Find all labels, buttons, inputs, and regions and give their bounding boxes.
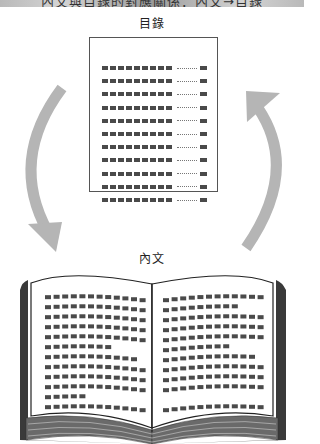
text-line-char xyxy=(122,356,128,360)
text-line-char xyxy=(215,374,221,378)
text-line-char xyxy=(140,388,146,392)
text-line-char xyxy=(223,404,229,408)
text-line-char xyxy=(172,407,178,411)
text-line-char xyxy=(122,296,128,300)
text-line-char xyxy=(140,368,146,372)
text-line-char xyxy=(45,395,51,399)
text-line-char xyxy=(215,294,221,298)
text-line-char xyxy=(114,326,120,330)
text-line-char xyxy=(140,308,146,312)
text-line-char xyxy=(258,375,264,379)
text-line-char xyxy=(189,356,195,360)
text-line-char xyxy=(223,324,229,328)
text-line-char xyxy=(45,305,51,309)
text-line-char xyxy=(215,384,221,388)
text-line-char xyxy=(249,325,255,329)
text-line-char xyxy=(122,366,128,370)
text-line-char xyxy=(114,376,120,380)
text-line-char xyxy=(240,384,246,388)
text-line-char xyxy=(232,314,238,318)
text-line-char xyxy=(114,296,120,300)
text-line-char xyxy=(180,356,186,360)
text-line-char xyxy=(122,316,128,320)
text-line-char xyxy=(45,355,51,359)
text-line-char xyxy=(54,335,60,339)
text-line-char xyxy=(180,326,186,330)
text-line-char xyxy=(232,304,238,308)
text-line-char xyxy=(197,405,203,409)
text-line-char xyxy=(79,384,85,388)
text-line-char xyxy=(240,314,246,318)
text-line-char xyxy=(249,385,255,389)
text-line-char xyxy=(62,394,68,398)
text-line-char xyxy=(71,404,77,408)
text-line-char xyxy=(97,305,103,309)
text-line-char xyxy=(197,305,203,309)
text-line-char xyxy=(215,354,221,358)
text-line-char xyxy=(54,355,60,359)
text-line-char xyxy=(97,315,103,319)
text-line-char xyxy=(71,304,77,308)
text-line-char xyxy=(232,364,238,368)
text-line-char xyxy=(114,366,120,370)
text-line-char xyxy=(54,295,60,299)
text-line-char xyxy=(232,334,238,338)
text-line-char xyxy=(71,374,77,378)
text-line-char xyxy=(54,365,60,369)
text-line-char xyxy=(206,375,212,379)
text-line-char xyxy=(131,327,137,331)
text-line-char xyxy=(163,368,169,372)
text-line-char xyxy=(189,376,195,380)
text-line-char xyxy=(54,325,60,329)
text-line-char xyxy=(172,327,178,331)
text-line-char xyxy=(206,355,212,359)
text-line-char xyxy=(206,305,212,309)
text-line-char xyxy=(258,295,264,299)
text-line-char xyxy=(232,324,238,328)
text-line-char xyxy=(240,404,246,408)
text-line-char xyxy=(71,384,77,388)
text-line-char xyxy=(79,374,85,378)
text-line-char xyxy=(206,295,212,299)
text-line-char xyxy=(249,355,255,359)
text-line-char xyxy=(172,367,178,371)
text-line-char xyxy=(172,347,178,351)
text-line-char xyxy=(140,338,146,342)
text-line-char xyxy=(180,376,186,380)
text-line-char xyxy=(240,354,246,358)
text-line-char xyxy=(249,315,255,319)
text-line-char xyxy=(45,405,51,409)
text-line-char xyxy=(45,315,51,319)
text-line-char xyxy=(189,366,195,370)
text-line-char xyxy=(122,376,128,380)
text-line-char xyxy=(71,394,77,398)
text-line-char xyxy=(206,405,212,409)
text-line-char xyxy=(223,364,229,368)
text-line-char xyxy=(88,314,94,318)
text-line-char xyxy=(131,357,137,361)
text-line-char xyxy=(215,324,221,328)
text-line-char xyxy=(105,385,111,389)
text-line-char xyxy=(223,294,229,298)
text-line-char xyxy=(54,385,60,389)
text-line-char xyxy=(79,304,85,308)
text-line-char xyxy=(180,316,186,320)
text-line-char xyxy=(215,404,221,408)
text-line-char xyxy=(105,375,111,379)
text-line-char xyxy=(62,334,68,338)
text-line-char xyxy=(215,364,221,368)
text-line-char xyxy=(62,294,68,298)
text-line-char xyxy=(54,345,60,349)
text-line-char xyxy=(131,317,137,321)
text-line-char xyxy=(223,354,229,358)
text-line-char xyxy=(223,334,229,338)
text-line-char xyxy=(131,407,137,411)
text-line-char xyxy=(163,328,169,332)
text-line-char xyxy=(88,354,94,358)
text-line-char xyxy=(258,325,264,329)
text-line-char xyxy=(62,344,68,348)
text-line-char xyxy=(172,297,178,301)
text-line-char xyxy=(97,405,103,409)
text-line-char xyxy=(197,355,203,359)
text-line-char xyxy=(180,366,186,370)
